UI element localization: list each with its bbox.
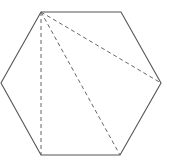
hexagon-outline <box>1 12 161 155</box>
diagonal-to-right-vertex <box>41 12 161 83</box>
hexagon-diagram <box>0 0 180 167</box>
hexagon-svg <box>0 0 180 167</box>
diagonal-to-bottom-right-vertex <box>41 12 120 155</box>
